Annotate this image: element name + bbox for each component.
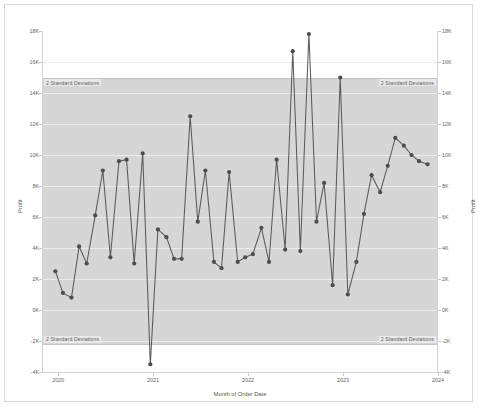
- x-axis-tick-label: 2022: [228, 377, 268, 383]
- data-point[interactable]: [53, 269, 57, 273]
- data-point[interactable]: [298, 249, 302, 253]
- y-axis-tick-mark-left: [39, 155, 42, 156]
- band-label-bottom-right: 2 Standard Deviations: [379, 336, 436, 343]
- y-axis-tick-label-left: 4K: [13, 245, 39, 251]
- y-axis-title-left: Profit: [17, 199, 23, 213]
- data-point[interactable]: [124, 158, 128, 162]
- y-axis-tick-mark-right: [438, 217, 441, 218]
- data-point[interactable]: [227, 170, 231, 174]
- data-point[interactable]: [331, 283, 335, 287]
- data-point[interactable]: [188, 114, 192, 118]
- data-point[interactable]: [180, 257, 184, 261]
- x-axis-tick-label: 2024: [418, 377, 458, 383]
- data-point[interactable]: [108, 255, 112, 259]
- data-point[interactable]: [156, 227, 160, 231]
- data-point[interactable]: [369, 173, 373, 177]
- data-point[interactable]: [132, 261, 136, 265]
- data-point[interactable]: [322, 181, 326, 185]
- y-axis-tick-label-left: 6K: [13, 214, 39, 220]
- y-axis-tick-mark-right: [438, 62, 441, 63]
- data-point[interactable]: [362, 212, 366, 216]
- y-axis-tick-mark-left: [39, 279, 42, 280]
- y-axis-tick-label-left: -2K: [13, 338, 39, 344]
- data-point[interactable]: [117, 159, 121, 163]
- x-axis-tick-mark: [248, 373, 249, 376]
- y-axis-tick-label-right: -4K: [442, 369, 468, 375]
- data-point[interactable]: [61, 291, 65, 295]
- data-point[interactable]: [203, 168, 207, 172]
- data-point[interactable]: [291, 49, 295, 53]
- y-axis-title-right: Profit: [470, 199, 476, 213]
- data-point[interactable]: [77, 244, 81, 248]
- data-point[interactable]: [354, 260, 358, 264]
- data-point[interactable]: [93, 213, 97, 217]
- y-axis-tick-mark-left: [39, 217, 42, 218]
- plot-area[interactable]: 2 Standard Deviations 2 Standard Deviati…: [42, 31, 438, 372]
- data-point[interactable]: [393, 136, 397, 140]
- data-point[interactable]: [85, 261, 89, 265]
- y-axis-tick-mark-left: [39, 93, 42, 94]
- y-axis-tick-label-left: -4K: [13, 369, 39, 375]
- y-axis-tick-label-right: 2K: [442, 276, 468, 282]
- data-point[interactable]: [346, 292, 350, 296]
- y-axis-tick-label-left: 12K: [13, 121, 39, 127]
- x-axis-line: [42, 372, 438, 373]
- x-axis-tick-label: 2021: [133, 377, 173, 383]
- y-axis-tick-mark-left: [39, 31, 42, 32]
- data-point[interactable]: [409, 153, 413, 157]
- y-axis-tick-label-right: 14K: [442, 90, 468, 96]
- data-point[interactable]: [101, 168, 105, 172]
- band-label-bottom-left: 2 Standard Deviations: [44, 336, 101, 343]
- y-axis-tick-label-right: -2K: [442, 338, 468, 344]
- band-label-top-right: 2 Standard Deviations: [379, 79, 436, 86]
- y-axis-tick-label-right: 12K: [442, 121, 468, 127]
- y-axis-tick-mark-right: [438, 31, 441, 32]
- data-point[interactable]: [141, 151, 145, 155]
- data-point[interactable]: [243, 255, 247, 259]
- data-point[interactable]: [196, 220, 200, 224]
- data-point[interactable]: [219, 266, 223, 270]
- data-point[interactable]: [338, 75, 342, 79]
- y-axis-tick-label-right: 4K: [442, 245, 468, 251]
- x-axis-tick-mark: [438, 373, 439, 376]
- data-point[interactable]: [172, 257, 176, 261]
- y-axis-tick-label-right: 6K: [442, 214, 468, 220]
- y-axis-tick-label-right: 16K: [442, 59, 468, 65]
- data-point[interactable]: [212, 260, 216, 264]
- y-axis-tick-label-left: 2K: [13, 276, 39, 282]
- y-axis-tick-label-left: 0K: [13, 307, 39, 313]
- profit-data-points: [53, 32, 429, 366]
- data-point[interactable]: [148, 362, 152, 366]
- y-axis-tick-label-left: 10K: [13, 152, 39, 158]
- y-axis-tick-label-left: 16K: [13, 59, 39, 65]
- y-axis-tick-mark-left: [39, 341, 42, 342]
- y-axis-tick-mark-right: [438, 186, 441, 187]
- data-point[interactable]: [259, 226, 263, 230]
- y-axis-tick-mark-left: [39, 248, 42, 249]
- data-point[interactable]: [236, 260, 240, 264]
- data-point[interactable]: [402, 144, 406, 148]
- data-point[interactable]: [386, 164, 390, 168]
- data-point[interactable]: [164, 235, 168, 239]
- y-axis-tick-label-left: 8K: [13, 183, 39, 189]
- data-point[interactable]: [275, 158, 279, 162]
- data-point[interactable]: [378, 190, 382, 194]
- x-axis-tick-label: 2020: [38, 377, 78, 383]
- y-axis-tick-mark-right: [438, 124, 441, 125]
- y-axis-tick-mark-left: [39, 62, 42, 63]
- data-point[interactable]: [251, 252, 255, 256]
- data-point[interactable]: [267, 260, 271, 264]
- y-axis-tick-label-left: 14K: [13, 90, 39, 96]
- x-axis-tick-mark: [153, 373, 154, 376]
- data-point[interactable]: [283, 247, 287, 251]
- data-point[interactable]: [307, 32, 311, 36]
- data-point[interactable]: [314, 220, 318, 224]
- data-point[interactable]: [426, 162, 430, 166]
- y-axis-tick-mark-right: [438, 341, 441, 342]
- x-axis-title: Month of Order Date: [42, 391, 438, 397]
- y-axis-tick-label-right: 8K: [442, 183, 468, 189]
- y-axis-tick-mark-right: [438, 248, 441, 249]
- data-point[interactable]: [69, 296, 73, 300]
- y-axis-tick-label-right: 10K: [442, 152, 468, 158]
- data-point[interactable]: [417, 159, 421, 163]
